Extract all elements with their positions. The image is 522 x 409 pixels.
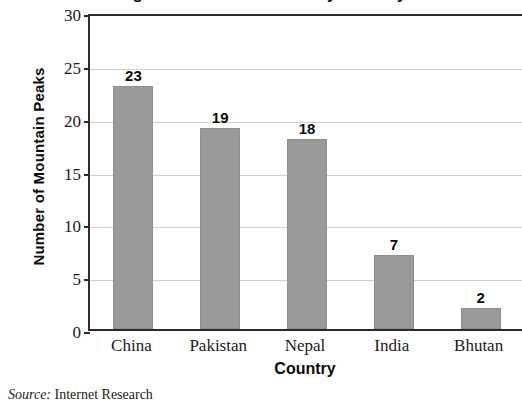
bar[interactable]: 18 bbox=[287, 139, 327, 329]
x-axis-tick-label: India bbox=[374, 336, 409, 356]
x-axis-tick-label: Bhutan bbox=[454, 336, 503, 356]
x-axis-tick-label: Pakistan bbox=[189, 336, 247, 356]
bar-value-label: 7 bbox=[390, 236, 398, 253]
y-axis-tick-mark bbox=[84, 332, 90, 334]
chart-title: Highest Mountain Peaks by Country bbox=[0, 0, 522, 4]
x-axis-tick-label: Nepal bbox=[285, 336, 326, 356]
bar-value-label: 2 bbox=[476, 289, 484, 306]
bar-chart-figure: Highest Mountain Peaks by Country Number… bbox=[0, 0, 522, 409]
source-note: Source: Internet Research bbox=[8, 387, 153, 403]
y-axis-tick-label: 5 bbox=[73, 270, 82, 290]
gridline bbox=[90, 69, 522, 70]
plot-inner: 05101520253023191872 bbox=[90, 16, 522, 329]
y-axis-tick-mark bbox=[84, 121, 90, 123]
plot-area: 05101520253023191872 bbox=[88, 14, 522, 331]
y-axis-tick-label: 25 bbox=[64, 59, 81, 79]
bar[interactable]: 19 bbox=[200, 128, 240, 329]
bar[interactable]: 23 bbox=[113, 86, 153, 329]
y-axis-tick-mark bbox=[84, 68, 90, 70]
bar-value-label: 19 bbox=[212, 109, 229, 126]
y-axis-tick-label: 10 bbox=[64, 217, 81, 237]
y-axis-tick-label: 15 bbox=[64, 165, 81, 185]
bar[interactable]: 2 bbox=[461, 308, 501, 329]
y-axis-tick-label: 0 bbox=[73, 323, 82, 343]
x-axis-tick-label: China bbox=[111, 336, 152, 356]
y-axis-tick-mark bbox=[84, 226, 90, 228]
source-value: Internet Research bbox=[55, 387, 153, 402]
bar-value-label: 23 bbox=[125, 67, 142, 84]
y-axis-tick-mark bbox=[84, 279, 90, 281]
y-axis-tick-mark bbox=[84, 15, 90, 17]
x-axis-title: Country bbox=[88, 360, 522, 378]
y-axis-tick-label: 20 bbox=[64, 112, 81, 132]
bar-value-label: 18 bbox=[299, 120, 316, 137]
y-axis-tick-mark bbox=[84, 174, 90, 176]
bar[interactable]: 7 bbox=[374, 255, 414, 329]
y-axis-tick-label: 30 bbox=[64, 6, 81, 26]
y-axis-title: Number of Mountain Peaks bbox=[30, 17, 47, 317]
source-label: Source: bbox=[8, 387, 51, 402]
